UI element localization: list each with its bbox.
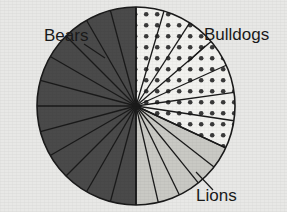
pie-chart-container: Bears Bulldogs Lions <box>0 0 287 212</box>
pie-label-bears: Bears <box>44 26 88 45</box>
pie-label-lions: Lions <box>196 186 237 205</box>
pie-label-bulldogs: Bulldogs <box>204 25 269 44</box>
pie-chart-svg: Bears Bulldogs Lions <box>0 0 287 212</box>
pie-center-hub <box>132 102 139 109</box>
